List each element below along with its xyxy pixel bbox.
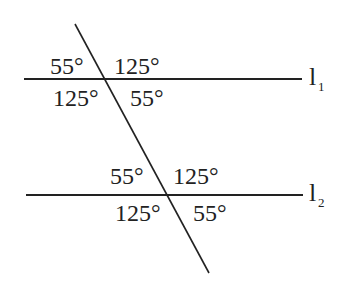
line-l2-subscript: 2 — [318, 196, 325, 209]
angle-2-top-right: 125° — [173, 164, 219, 188]
angle-1-top-right: 125° — [114, 54, 160, 78]
angle-1-bottom-left: 125° — [53, 86, 99, 110]
angle-2-bottom-left: 125° — [115, 201, 161, 225]
parallel-lines-diagram — [0, 0, 343, 283]
line-l1-subscript: 1 — [318, 80, 325, 93]
line-l2-label: l — [309, 180, 316, 206]
line-l1-label: l — [309, 64, 316, 90]
angle-1-top-left: 55° — [50, 54, 84, 78]
angle-2-top-left: 55° — [110, 164, 144, 188]
angle-2-bottom-right: 55° — [193, 201, 227, 225]
angle-1-bottom-right: 55° — [130, 86, 164, 110]
